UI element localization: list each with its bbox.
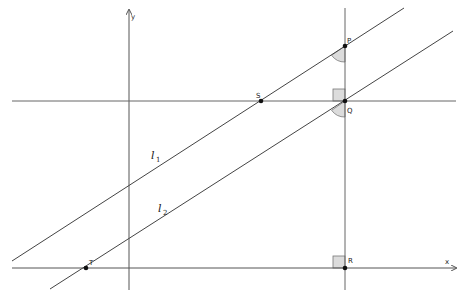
label-t: T (88, 259, 94, 267)
angle-marker-q (332, 101, 345, 117)
right-angle-marker-q (333, 89, 345, 101)
line-l2 (50, 31, 453, 289)
label-s: S (256, 92, 261, 100)
point-q (343, 99, 348, 104)
label-r: R (348, 257, 353, 265)
label-q: Q (347, 107, 353, 115)
label-x-axis: x (445, 258, 449, 266)
label-y-axis: y (131, 13, 135, 21)
label-l2: l 2 (158, 202, 167, 217)
svg-text:l: l (151, 149, 155, 162)
point-r (343, 266, 348, 271)
svg-text:1: 1 (156, 156, 160, 164)
label-l1: l 1 (151, 149, 160, 164)
point-t (84, 266, 89, 271)
svg-text:2: 2 (163, 209, 167, 217)
geometry-diagram: y x P Q S T R l 1 l 2 (0, 0, 463, 297)
right-angle-marker-r (333, 256, 345, 268)
label-p: P (347, 37, 351, 45)
svg-text:l: l (158, 202, 162, 215)
